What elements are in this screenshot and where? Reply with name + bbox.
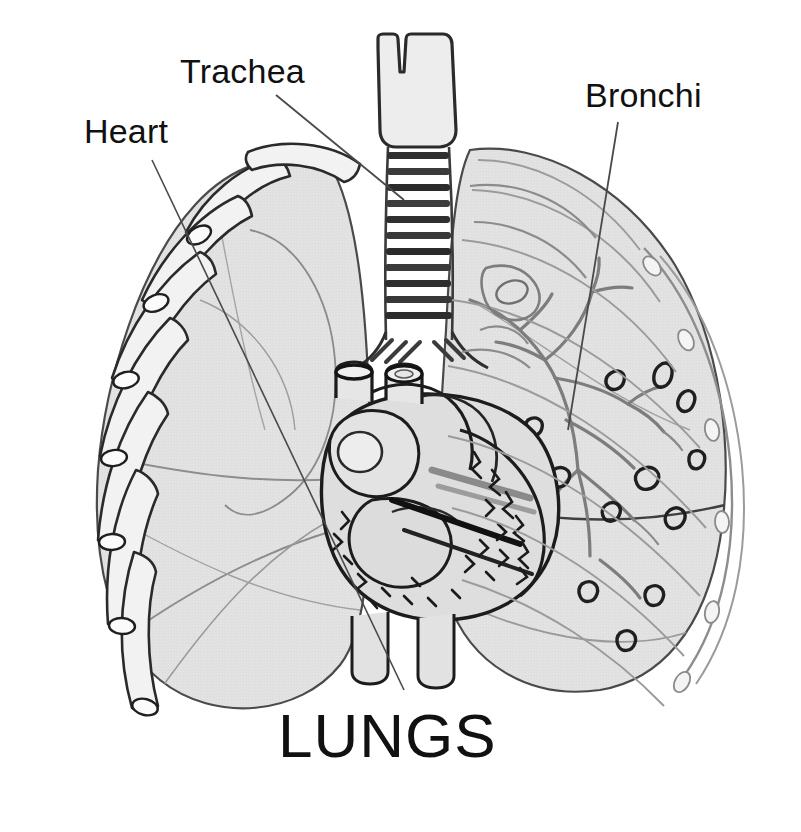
aorta: [336, 362, 372, 402]
lungs-diagram: Trachea Heart Bronchi LUNGS: [0, 0, 801, 832]
label-bronchi: Bronchi: [585, 76, 702, 115]
label-trachea: Trachea: [180, 52, 305, 91]
label-heart: Heart: [84, 112, 168, 151]
figure-title: LUNGS: [278, 700, 497, 771]
tracheal-rings: [385, 152, 452, 319]
